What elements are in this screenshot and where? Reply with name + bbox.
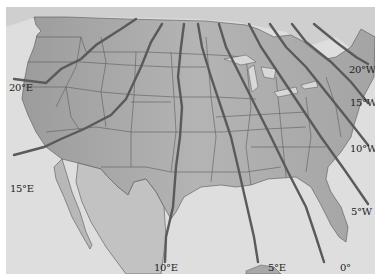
label-5W: 5°W <box>351 206 372 217</box>
label-5E: 5°E <box>268 262 286 273</box>
label-20W: 20°W <box>349 64 375 75</box>
label-15W: 15°W <box>350 97 375 108</box>
declination-map: 20°E 15°E 10°E 5°E 0° 5°W 10°W 15°W 20°W <box>6 7 375 274</box>
label-10W: 10°W <box>350 143 375 154</box>
label-15E: 15°E <box>10 183 34 194</box>
map-canvas <box>6 7 375 274</box>
label-0: 0° <box>340 262 351 273</box>
label-10E: 10°E <box>154 262 178 273</box>
label-20E: 20°E <box>9 82 33 93</box>
